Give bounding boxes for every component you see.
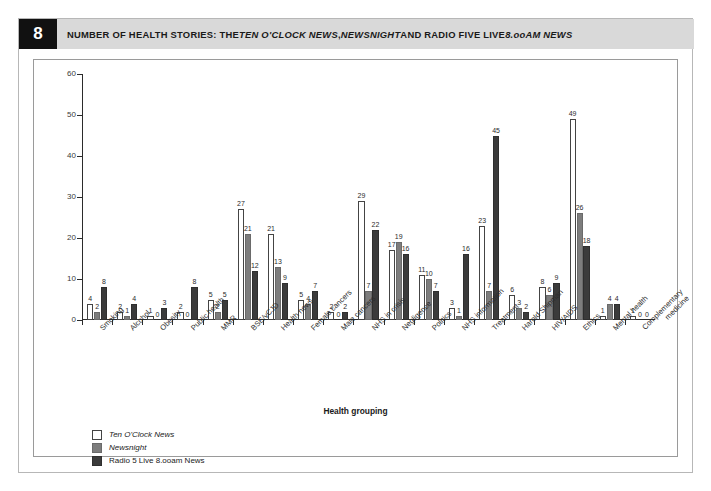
- bar-value-label: 8: [102, 278, 106, 285]
- bar-value-label: 5: [299, 291, 303, 298]
- bar-value-label: 6: [547, 286, 551, 293]
- bar[interactable]: 21: [245, 234, 251, 320]
- bar-value-label: 4: [132, 295, 136, 302]
- bar-value-label: 5: [209, 291, 213, 298]
- bar-value-label: 27: [237, 200, 245, 207]
- bar-group: 632: [504, 74, 534, 320]
- figure-title: NUMBER OF HEALTH STORIES: THE TEN O'CLOC…: [67, 19, 688, 49]
- bar-value-label: 7: [313, 282, 317, 289]
- bar-value-label: 0: [638, 311, 642, 318]
- legend-swatch: [92, 430, 102, 440]
- bar-value-label: 16: [402, 245, 410, 252]
- bar-value-label: 19: [395, 233, 403, 240]
- bar-group: 428: [82, 74, 112, 320]
- bar-value-label: 8: [541, 278, 545, 285]
- bar[interactable]: 16: [463, 254, 469, 320]
- bar[interactable]: 7: [312, 291, 318, 320]
- bar-value-label: 4: [88, 295, 92, 302]
- bar[interactable]: 26: [577, 213, 583, 320]
- figure-number-badge: 8: [19, 19, 57, 49]
- legend-swatch: [92, 456, 102, 466]
- bar[interactable]: 12: [252, 271, 258, 320]
- bar-value-label: 13: [274, 258, 282, 265]
- figure-caption-bar: 8 NUMBER OF HEALTH STORIES: THE TEN O'CL…: [19, 19, 694, 49]
- y-tick-label: 60: [50, 69, 76, 78]
- bar-value-label: 0: [336, 311, 340, 318]
- bar-value-label: 1: [601, 307, 605, 314]
- legend-swatch: [92, 443, 102, 453]
- bar-value-label: 23: [478, 217, 486, 224]
- bar[interactable]: 1: [124, 316, 130, 320]
- x-tick-labels: SmokingAlcoholObesityPublic healthMMRBSE…: [82, 322, 655, 400]
- bar-value-label: 3: [450, 299, 454, 306]
- bar-value-label: 16: [462, 245, 470, 252]
- bar[interactable]: 1: [456, 316, 462, 320]
- bar[interactable]: 4: [607, 304, 613, 320]
- plot-frame: Number of stories 0102030405060 42821410…: [33, 59, 678, 457]
- figure-container: 8 NUMBER OF HEALTH STORIES: THE TEN O'CL…: [18, 18, 693, 473]
- bar-value-label: 5: [223, 291, 227, 298]
- legend-label: Ten O'Clock News: [109, 430, 174, 439]
- legend-label: Newsnight: [109, 443, 146, 452]
- legend-item[interactable]: Ten O'Clock News: [92, 428, 205, 441]
- bar-groups: 4282141032085252721122113954720229722171…: [82, 74, 655, 320]
- bar[interactable]: 2: [94, 312, 100, 320]
- bar[interactable]: 22: [372, 230, 378, 320]
- bar-value-label: 45: [492, 127, 500, 134]
- bar-group: 100: [625, 74, 655, 320]
- bar-value-label: 2: [524, 303, 528, 310]
- bar-value-label: 12: [251, 262, 259, 269]
- bar-group: 103: [142, 74, 172, 320]
- y-tick-label: 30: [50, 192, 76, 201]
- bar[interactable]: 8: [191, 287, 197, 320]
- bar[interactable]: 4: [87, 304, 93, 320]
- bar-value-label: 7: [434, 282, 438, 289]
- chart-axes: 0102030405060 42821410320852527211221139…: [82, 74, 655, 320]
- bar[interactable]: 13: [275, 267, 281, 320]
- bar-value-label: 29: [358, 192, 366, 199]
- bar-value-label: 2: [95, 303, 99, 310]
- y-tick-label: 40: [50, 151, 76, 160]
- bar-value-label: 4: [608, 295, 612, 302]
- bar-group: 214: [112, 74, 142, 320]
- chart-legend: Ten O'Clock NewsNewsnightRadio 5 Live 8.…: [92, 428, 205, 467]
- title-italic-run: 8.ooAM NEWS: [505, 29, 572, 40]
- bar[interactable]: 7: [433, 291, 439, 320]
- title-run: NUMBER OF HEALTH STORIES: THE: [67, 29, 239, 40]
- bar-value-label: 0: [155, 311, 159, 318]
- bar-value-label: 9: [554, 274, 558, 281]
- title-italic-run: TEN O'CLOCK NEWS: [239, 29, 338, 40]
- bar-group: 869: [534, 74, 564, 320]
- legend-item[interactable]: Newsnight: [92, 441, 205, 454]
- bar-value-label: 18: [583, 237, 591, 244]
- bar-value-label: 3: [162, 299, 166, 306]
- bar-group: 492618: [565, 74, 595, 320]
- bar-group: 171916: [384, 74, 414, 320]
- bar-group: 202: [323, 74, 353, 320]
- bar-value-label: 8: [193, 278, 197, 285]
- bar[interactable]: 16: [403, 254, 409, 320]
- title-run: AND RADIO FIVE LIVE: [400, 29, 505, 40]
- bar-value-label: 7: [367, 282, 371, 289]
- x-axis-label: Health grouping: [34, 406, 677, 416]
- bar-group: 23745: [474, 74, 504, 320]
- bar[interactable]: 8: [101, 287, 107, 320]
- bar-value-label: 2: [343, 303, 347, 310]
- bar-value-label: 21: [244, 225, 252, 232]
- bar-value-label: 49: [569, 110, 577, 117]
- bar-value-label: 7: [487, 282, 491, 289]
- bar[interactable]: 49: [570, 119, 576, 320]
- bar-value-label: 2: [179, 303, 183, 310]
- bar-group: 272112: [233, 74, 263, 320]
- bar-group: 11107: [414, 74, 444, 320]
- bar[interactable]: 2: [215, 312, 221, 320]
- bar-value-label: 10: [425, 270, 433, 277]
- bar-value-label: 1: [457, 307, 461, 314]
- bar-value-label: 6: [510, 286, 514, 293]
- bar-value-label: 21: [267, 225, 275, 232]
- bar[interactable]: 9: [282, 283, 288, 320]
- bar-group: 547: [293, 74, 323, 320]
- bar[interactable]: 18: [583, 246, 589, 320]
- legend-item[interactable]: Radio 5 Live 8.ooam News: [92, 454, 205, 467]
- bar-group: 3116: [444, 74, 474, 320]
